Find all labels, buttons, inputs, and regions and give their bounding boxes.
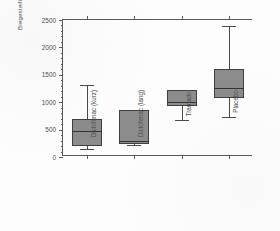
y-axis-tick: 500 — [59, 130, 63, 131]
y-axis-minor-tick — [61, 124, 64, 125]
y-axis-minor-tick — [61, 152, 64, 153]
top-axis-tick — [229, 16, 230, 20]
y-axis-minor-tick — [61, 80, 64, 81]
y-axis-minor-tick — [61, 25, 64, 26]
whisker-upper — [87, 85, 88, 119]
y-axis-minor-tick — [61, 91, 64, 92]
x-axis-tick — [87, 155, 88, 159]
whisker-lower — [182, 106, 183, 120]
y-axis-minor-tick — [61, 119, 64, 120]
top-axis-tick — [134, 16, 135, 20]
y-axis-tick-label: 0 — [52, 154, 56, 161]
y-axis-tick: 2500 — [59, 20, 63, 21]
y-axis-minor-tick — [61, 135, 64, 136]
y-axis-title: Biegesteifigkeit [Nmm/mm] — [14, 0, 26, 30]
median-line — [214, 88, 244, 89]
y-axis-minor-tick — [61, 64, 64, 65]
x-axis-category-label: Diclofenac (lang) — [136, 90, 146, 160]
y-axis-minor-tick — [61, 31, 64, 32]
y-axis-tick-label: 500 — [45, 126, 56, 133]
y-axis-tick-label: 1000 — [42, 99, 56, 106]
top-axis-tick — [87, 16, 88, 20]
y-axis-tick: 1000 — [59, 102, 63, 103]
x-axis-category-label: Tramadol — [184, 90, 194, 160]
y-axis-minor-tick — [61, 86, 64, 87]
y-axis-tick: 0 — [59, 157, 63, 158]
y-axis-minor-tick — [61, 141, 64, 142]
x-axis-category-label: Placebo — [231, 90, 241, 160]
y-axis-tick-label: 2500 — [42, 17, 56, 24]
y-axis-minor-tick — [61, 108, 64, 109]
y-axis-minor-tick — [61, 53, 64, 54]
whisker-cap-upper — [80, 85, 94, 86]
x-axis-tick — [182, 155, 183, 159]
y-axis-tick: 1500 — [59, 75, 63, 76]
y-axis-minor-tick — [61, 36, 64, 37]
whisker-cap-upper — [222, 26, 236, 27]
y-axis-minor-tick — [61, 42, 64, 43]
x-axis-category-label: Diclofenac (kurz) — [89, 90, 99, 160]
boxplot-figure: Biegesteifigkeit [Nmm/mm] 05001000150020… — [0, 0, 280, 231]
whisker-upper — [229, 26, 230, 69]
y-axis-tick: 2000 — [59, 47, 63, 48]
y-axis-tick-label: 2000 — [42, 44, 56, 51]
y-axis-minor-tick — [61, 58, 64, 59]
y-axis-minor-tick — [61, 113, 64, 114]
top-axis-tick — [182, 16, 183, 20]
y-axis-minor-tick — [61, 97, 64, 98]
y-axis-minor-tick — [61, 146, 64, 147]
y-axis-tick-label: 1500 — [42, 71, 56, 78]
y-axis-minor-tick — [61, 69, 64, 70]
